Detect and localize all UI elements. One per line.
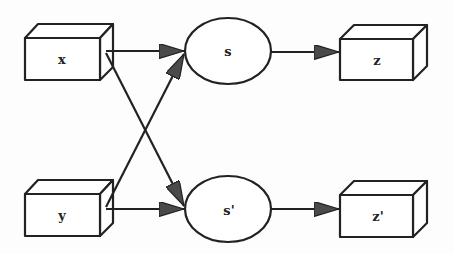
node-x-box [25, 24, 113, 80]
node-s-label: s [224, 44, 231, 59]
diagram-svg: x y s s' z z' [0, 0, 454, 254]
node-x-label: x [58, 52, 66, 67]
node-z-prime-label: z' [372, 209, 383, 224]
node-z-label: z [373, 53, 380, 68]
node-s-prime-label: s' [223, 203, 234, 218]
node-z-box [340, 25, 427, 80]
node-y-label: y [57, 208, 66, 223]
diagram-canvas: x y s s' z z' [0, 0, 454, 254]
node-y-box [25, 180, 113, 236]
